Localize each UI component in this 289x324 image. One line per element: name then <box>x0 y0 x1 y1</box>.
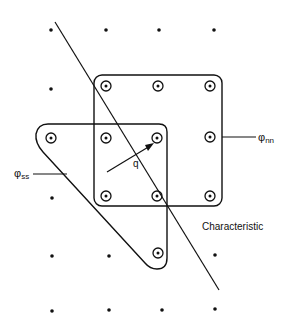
phi-nn-label: φnn <box>258 131 274 145</box>
phi-nn-symbol: φ <box>258 131 265 143</box>
phi-nn-subscript: nn <box>265 136 274 145</box>
grid-dots <box>49 28 217 313</box>
characteristic-label: Characteristic <box>202 221 263 232</box>
q-arrow <box>107 143 154 172</box>
phi-ss-label: φss <box>14 167 29 181</box>
circled-nodes <box>46 81 215 258</box>
phi-ss-subscript: ss <box>21 172 29 181</box>
circled-node-centers <box>50 85 212 255</box>
characteristic-line <box>55 22 219 290</box>
q-label: q <box>133 158 139 169</box>
diagram-canvas: q φnn φss Characteristic <box>0 0 289 324</box>
phi-ss-symbol: φ <box>14 167 21 179</box>
phi-nn-stencil <box>94 75 222 206</box>
